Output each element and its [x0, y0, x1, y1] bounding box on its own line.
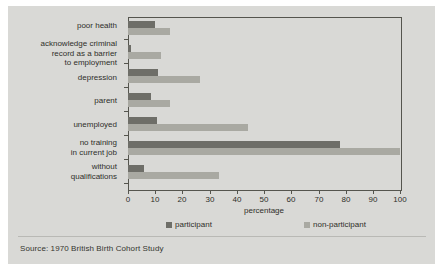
bar-nonparticipant-without-qualifications: [128, 172, 219, 179]
bar-participant-poor-health: [128, 21, 155, 28]
x-ticklabel-90: 90: [369, 195, 378, 204]
y-label-poor-health: poor health: [77, 21, 117, 31]
x-ticklabel-30: 30: [206, 195, 215, 204]
y-label-parent: parent: [94, 96, 117, 106]
x-ticklabel-60: 60: [287, 195, 296, 204]
x-ticklabel-10: 10: [151, 195, 160, 204]
bar-nonparticipant-parent: [128, 100, 170, 107]
bar-participant-without-qualifications: [128, 165, 144, 172]
x-ticklabel-20: 20: [178, 195, 187, 204]
y-label-criminal-record: acknowledge criminal record as a barrier…: [41, 39, 117, 68]
legend-swatch-nonparticipant-icon: [304, 222, 310, 228]
y-label-no-training: no training in current job: [71, 138, 117, 157]
bar-nonparticipant-no-training: [128, 148, 400, 155]
y-label-without-qualifications: without qualifications: [71, 162, 117, 181]
x-ticklabel-70: 70: [315, 195, 324, 204]
legend-swatch-participant-icon: [166, 222, 172, 228]
x-tick-80: [346, 190, 347, 194]
legend-item-participant: participant: [166, 220, 212, 229]
x-tick-20: [182, 190, 183, 194]
y-label-unemployed: unemployed: [73, 120, 117, 130]
bar-participant-no-training: [128, 141, 340, 148]
chart-legend: participant non-participant: [128, 220, 400, 232]
legend-label-nonparticipant: non-participant: [313, 220, 366, 229]
chart-figure: poor health acknowledge criminal record …: [0, 0, 443, 271]
x-axis-title: percentage: [128, 206, 400, 215]
y-label-depression: depression: [78, 73, 117, 83]
x-ticklabel-0: 0: [126, 195, 130, 204]
x-tick-0: [128, 190, 129, 194]
source-divider: [18, 236, 426, 237]
x-tick-90: [373, 190, 374, 194]
bar-participant-parent: [128, 93, 151, 100]
bar-nonparticipant-criminal-record: [128, 52, 161, 59]
bar-nonparticipant-unemployed: [128, 124, 248, 131]
legend-item-nonparticipant: non-participant: [304, 220, 366, 229]
bar-nonparticipant-poor-health: [128, 28, 170, 35]
bar-participant-depression: [128, 69, 158, 76]
source-note: Source: 1970 British Birth Cohort Study: [20, 244, 164, 253]
x-tick-70: [319, 190, 320, 194]
x-tick-10: [155, 190, 156, 194]
x-tick-30: [210, 190, 211, 194]
bar-participant-unemployed: [128, 117, 157, 124]
y-axis-labels: poor health acknowledge criminal record …: [0, 17, 124, 189]
x-tick-50: [264, 190, 265, 194]
x-ticklabel-100: 100: [393, 195, 406, 204]
x-ticklabel-80: 80: [342, 195, 351, 204]
bars-container: [128, 17, 400, 189]
x-tick-60: [291, 190, 292, 194]
x-ticklabel-40: 40: [233, 195, 242, 204]
bar-participant-criminal-record: [128, 45, 131, 52]
bar-nonparticipant-depression: [128, 76, 200, 83]
x-tick-40: [237, 190, 238, 194]
legend-label-participant: participant: [175, 220, 212, 229]
x-ticklabel-50: 50: [260, 195, 269, 204]
x-tick-100: [400, 190, 401, 194]
